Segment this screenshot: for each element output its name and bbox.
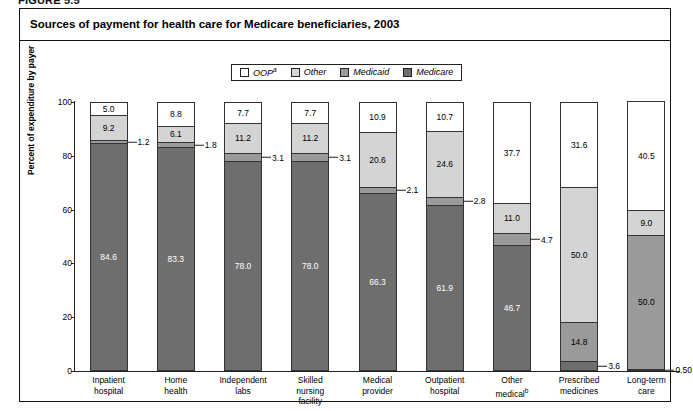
x-axis-label: Prescribedmedicines (546, 375, 613, 396)
x-axis-label-line: Inpatient (75, 375, 142, 386)
legend-label: Other (304, 68, 327, 77)
legend-swatch-icon (240, 68, 249, 77)
x-axis-label-line: nursing (277, 386, 344, 397)
bar-segment-callout: 3.1 (328, 153, 351, 162)
x-axis-label: Homehealth (142, 375, 209, 396)
y-axis-tick-mark (71, 317, 75, 318)
bar-segment-value: 20.6 (369, 156, 386, 165)
bar-segment-value: 6.1 (170, 130, 182, 139)
x-axis-label-line: medicines (546, 386, 613, 397)
bar-segment-value: 50.0 (571, 251, 588, 260)
bar-segment-value: 4.7 (540, 235, 553, 244)
bar-segment-value: 24.6 (436, 160, 453, 169)
title-divider (20, 40, 670, 41)
bar-segment-medicaid: 1.8 (157, 142, 195, 147)
bar-segment-oop: 8.8 (157, 102, 195, 126)
x-axis-label: Independentlabs (209, 375, 276, 396)
x-axis-label-line: Independent (209, 375, 276, 386)
bar-segment-medicaid: 3.1 (224, 153, 262, 161)
legend-swatch-icon (403, 68, 412, 77)
bar-segment-value: 0.50 (674, 366, 692, 375)
bar-segment-other: 9.2 (90, 115, 128, 140)
x-axis-label: Long-termcare (613, 375, 680, 396)
x-axis-label: Othermedicalb (478, 375, 545, 399)
bar-segment-value: 10.9 (369, 113, 386, 122)
bar-segment-value: 78.0 (235, 262, 252, 271)
bar-segment-medicaid: 3.1 (291, 153, 329, 161)
bar-segment-value: 14.8 (571, 338, 588, 347)
bar-group: 0.5050.09.040.5 (627, 101, 665, 371)
bar-segment-value: 40.5 (638, 152, 655, 161)
y-axis-tick-mark (71, 210, 75, 211)
bar-segment-value: 61.9 (436, 284, 453, 293)
legend-label: OOPa (253, 67, 277, 78)
x-axis-label-line: Prescribed (546, 375, 613, 386)
y-axis-tick-mark (71, 156, 75, 157)
bar-segment-value: 8.8 (170, 110, 182, 119)
legend-swatch-icon (291, 68, 300, 77)
callout-leader-line (194, 145, 204, 146)
bar-segment-oop: 10.9 (359, 102, 397, 131)
bar-segment-callout: 3.6 (597, 362, 620, 371)
bar-segment-medicaid: 1.2 (90, 140, 128, 143)
chart-legend: OOPaOtherMedicaidMedicare (231, 64, 462, 81)
bar-segment-value: 2.8 (473, 197, 486, 206)
x-axis-label-line: care (613, 386, 680, 397)
bar-segment-value: 11.0 (504, 214, 520, 223)
bar-segment-medicaid: 2.1 (359, 187, 397, 193)
bar-group: 61.92.824.610.7 (426, 102, 464, 371)
legend-oop: OOPa (240, 67, 277, 78)
bar-segment-value: 11.2 (302, 134, 318, 143)
x-axis-label-line: labs (209, 386, 276, 397)
callout-leader-line (664, 370, 674, 371)
x-axis-label: Inpatienthospital (75, 375, 142, 396)
bar-segment-value: 37.7 (504, 149, 521, 158)
bar-segment-callout: 3.1 (261, 153, 284, 162)
bar-segment-callout: 2.8 (463, 197, 486, 206)
x-axis-label-line: provider (344, 386, 411, 397)
bar-segment-oop: 31.6 (560, 102, 598, 187)
x-axis-label-line: Long-term (613, 375, 680, 386)
bar-segment-medicare: 3.6 (560, 361, 598, 371)
bar-segment-value: 10.7 (436, 113, 453, 122)
bar-segment-value: 3.6 (607, 362, 620, 371)
bar-segment-value: 3.1 (338, 153, 351, 162)
bar-group: 46.74.711.037.7 (493, 102, 531, 371)
y-axis-title: Percent of expenditure by payer (26, 46, 36, 175)
chart-title: Sources of payment for health care for M… (30, 18, 399, 30)
x-axis-label: Skillednursingfacility (277, 375, 344, 407)
bar-segment-other: 9.0 (627, 210, 665, 234)
legend-medicaid: Medicaid (340, 68, 389, 77)
y-axis-tick-mark (71, 371, 75, 372)
bar-segment-oop: 5.0 (90, 102, 128, 115)
bar-segment-oop: 7.7 (291, 102, 329, 123)
bar-segment-oop: 10.7 (426, 102, 464, 131)
bar-segment-oop: 40.5 (627, 101, 665, 210)
y-axis-tick-mark (71, 102, 75, 103)
x-axis-label-line: Home (142, 375, 209, 386)
bar-segment-value: 3.1 (271, 153, 284, 162)
callout-leader-line (597, 366, 607, 367)
x-axis-label-line: facility (277, 396, 344, 407)
bar-group: 3.614.850.031.6 (560, 102, 598, 371)
bar-segment-value: 7.7 (237, 109, 249, 118)
bar-segment-value: 9.2 (103, 124, 115, 133)
bar-group: 83.31.86.18.8 (157, 102, 195, 371)
bar-segment-medicaid: 4.7 (493, 233, 531, 246)
x-axis-label-line: Outpatient (411, 375, 478, 386)
callout-leader-line (463, 201, 473, 202)
bar-segment-value: 11.2 (235, 134, 251, 143)
bar-segment-medicare: 78.0 (224, 161, 262, 371)
bar-segment-other: 11.2 (224, 123, 262, 153)
bar-segment-other: 6.1 (157, 126, 195, 142)
bar-segment-value: 9.0 (640, 219, 652, 228)
legend-label: Medicare (416, 68, 453, 77)
x-axis-label: Outpatienthospital (411, 375, 478, 396)
bar-segment-medicare: 83.3 (157, 147, 195, 371)
bar-segment-medicaid: 50.0 (627, 235, 665, 370)
bar-segment-value: 7.7 (304, 109, 316, 118)
bar-segment-other: 11.2 (291, 123, 329, 153)
bar-segment-value: 1.2 (137, 138, 150, 147)
legend-label: Medicaid (353, 68, 389, 77)
x-axis-line (74, 371, 680, 372)
